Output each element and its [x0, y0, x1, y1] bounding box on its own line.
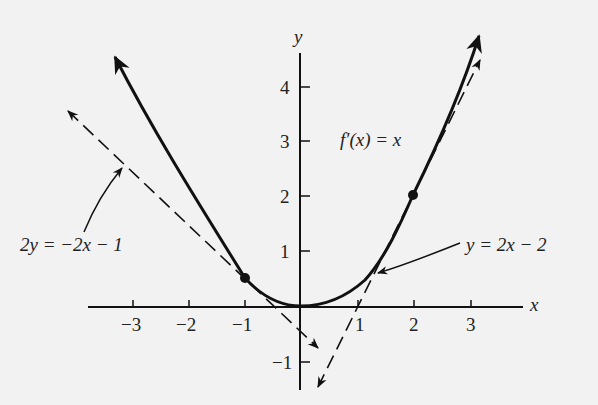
derivative-label: f′(x) = x [340, 129, 402, 151]
y-tick-label: 2 [280, 186, 290, 207]
right-tangent-label: y = 2x − 2 [464, 234, 547, 255]
y-tick-label: −1 [272, 352, 292, 373]
tangent-point-left [240, 273, 250, 283]
right-label-pointer-arrow [378, 243, 460, 273]
y-tick-label: 4 [280, 77, 290, 98]
x-axis: −3 −2 −1 1 2 3 x [88, 294, 539, 335]
x-axis-label: x [529, 294, 539, 315]
x-tick-label: −2 [176, 314, 196, 335]
x-tick-label: 3 [466, 314, 476, 335]
y-axis-ticks [300, 87, 310, 362]
y-tick-label: 1 [280, 241, 290, 262]
y-tick-label: 3 [280, 131, 290, 152]
y-axis-label: y [292, 26, 303, 47]
x-tick-label: −1 [232, 314, 252, 335]
left-tangent-label: 2y = −2x − 1 [20, 234, 123, 255]
x-tick-label: 1 [355, 314, 365, 335]
chart-canvas: −3 −2 −1 1 2 3 x 4 3 2 1 −1 y f′(x) = x … [0, 0, 598, 405]
x-tick-label: 2 [409, 314, 419, 335]
tangent-point-right [408, 190, 418, 200]
x-tick-label: −3 [121, 314, 141, 335]
left-label-pointer-arrow [84, 168, 122, 232]
